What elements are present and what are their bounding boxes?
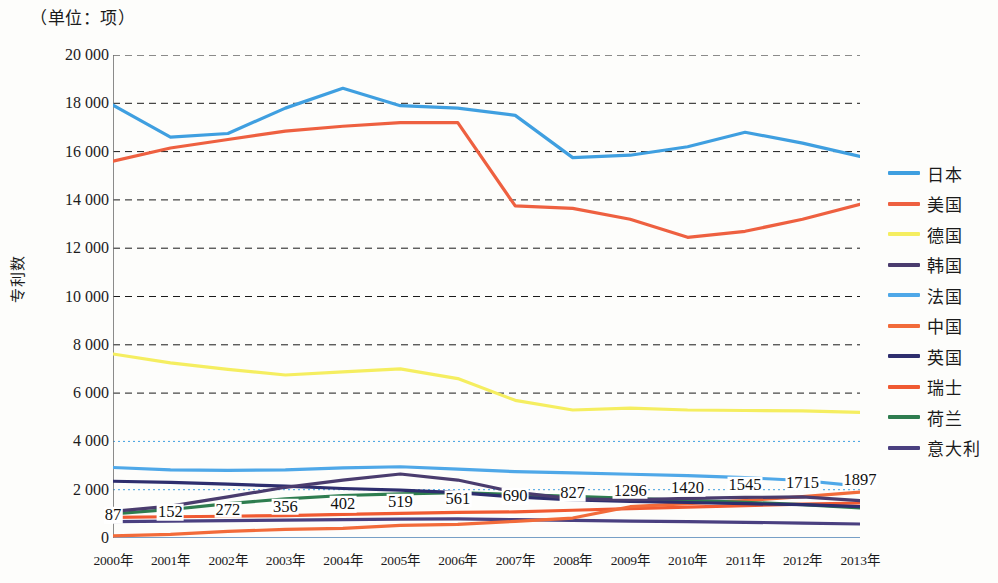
legend-item-1[interactable]: 美国 [888,189,996,220]
x-axis-tick-label: 2003年 [266,549,305,569]
legend-color-swatch [888,354,920,358]
x-axis-tick-label: 2009年 [611,549,650,569]
x-axis-tick-label: 2008年 [553,549,592,569]
legend-color-swatch [888,263,920,267]
data-label: 152 [157,504,184,521]
x-axis-tick-label: 2006年 [438,549,477,569]
data-label: 519 [387,493,414,510]
legend-item-label: 美国 [927,191,963,216]
legend-item-3[interactable]: 韩国 [888,250,996,281]
data-label: 690 [502,488,529,505]
y-axis-tick-label: 6 000 [13,385,109,401]
legend-color-swatch [888,415,920,419]
x-axis-tick-label: 2007年 [496,549,535,569]
y-axis-tick-label: 10 000 [13,289,109,305]
legend-color-swatch [888,171,920,175]
legend-color-swatch [888,232,920,236]
legend-item-label: 英国 [927,344,963,369]
legend-color-swatch [888,324,920,328]
chart-page: （单位：项） 专利数 20 00018 00016 00014 00012 00… [0,0,998,583]
data-label: 1296 [613,483,648,500]
x-axis-tick-label: 2002年 [208,549,247,569]
legend-item-5[interactable]: 中国 [888,311,996,342]
legend-color-swatch [888,385,920,389]
data-label: 1715 [785,474,820,491]
legend-item-9[interactable]: 意大利 [888,433,996,464]
data-label: 356 [272,499,299,516]
x-axis-tick-label: 2001年 [151,549,190,569]
legend-item-label: 意大利 [927,435,981,460]
legend-item-8[interactable]: 荷兰 [888,402,996,433]
data-label: 827 [559,485,586,502]
legend-item-label: 瑞士 [927,374,963,399]
data-label: 1420 [670,480,705,497]
x-axis-tick-label: 2010年 [668,549,707,569]
legend-item-0[interactable]: 日本 [888,158,996,189]
legend-item-label: 法国 [927,283,963,308]
data-label: 1897 [843,472,878,489]
y-axis-tick-label: 20 000 [13,47,109,63]
data-label: 272 [215,501,242,518]
x-axis-tick-label: 2011年 [726,549,765,569]
legend-item-4[interactable]: 法国 [888,280,996,311]
legend-item-2[interactable]: 德国 [888,219,996,250]
x-axis-tick-label: 2004年 [323,549,362,569]
data-label-layer: 8715227235640251956169082712961420154517… [113,55,860,538]
legend-item-label: 中国 [927,313,963,338]
y-axis-tick-label: 8 000 [13,337,109,353]
y-axis-tick-label: 14 000 [13,192,109,208]
y-axis-tick-label: 0 [13,530,109,546]
legend-color-swatch [888,293,920,297]
data-label: 402 [329,496,356,513]
x-axis-tick-label: 2000年 [93,549,132,569]
legend-item-label: 德国 [927,222,963,247]
data-label: 87 [104,507,123,524]
legend-color-swatch [888,202,920,206]
legend-item-6[interactable]: 英国 [888,341,996,372]
x-axis-tick-label: 2012年 [783,549,822,569]
chart-legend: 日本美国德国韩国法国中国英国瑞士荷兰意大利 [888,158,996,463]
y-axis-tick-label: 2 000 [13,482,109,498]
y-axis-tick-labels: 20 00018 00016 00014 00012 00010 0008 00… [0,0,109,583]
legend-item-7[interactable]: 瑞士 [888,372,996,403]
x-axis-tick-label: 2013年 [840,549,879,569]
legend-item-label: 荷兰 [927,405,963,430]
y-axis-tick-label: 18 000 [13,95,109,111]
y-axis-tick-label: 16 000 [13,144,109,160]
y-axis-tick-label: 4 000 [13,433,109,449]
data-label: 561 [444,491,471,508]
legend-item-label: 日本 [927,161,963,186]
y-axis-tick-label: 12 000 [13,240,109,256]
legend-item-label: 韩国 [927,252,963,277]
legend-color-swatch [888,446,920,450]
data-label: 1545 [728,477,763,494]
x-axis-tick-label: 2005年 [381,549,420,569]
x-axis-tick-labels: 2000年2001年2002年2003年2004年2005年2006年2007年… [113,549,860,575]
